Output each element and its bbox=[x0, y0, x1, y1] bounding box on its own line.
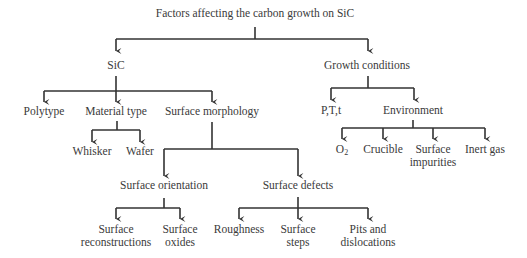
surface-impurities-node: Surface impurities bbox=[410, 143, 457, 169]
environment-node: Environment bbox=[383, 104, 443, 117]
surface-defects-node: Surface defects bbox=[263, 179, 334, 192]
surface-impurities-line1: Surface bbox=[410, 143, 457, 156]
surface-impurities-line2: impurities bbox=[410, 156, 457, 169]
root-node: Factors affecting the carbon growth on S… bbox=[156, 7, 354, 20]
surface-reconstructions-line2: reconstructions bbox=[81, 236, 151, 249]
surface-reconstructions-line1: Surface bbox=[81, 223, 151, 236]
surface-orientation-node: Surface orientation bbox=[120, 179, 208, 192]
surface-oxides-node: Surface oxides bbox=[162, 223, 197, 249]
pits-dislocations-line2: dislocations bbox=[341, 236, 396, 249]
surface-steps-line1: Surface bbox=[280, 223, 315, 236]
pits-dislocations-node: Pits and dislocations bbox=[341, 223, 396, 249]
inert-gas-node: Inert gas bbox=[465, 143, 505, 156]
whisker-node: Whisker bbox=[73, 145, 112, 158]
surface-reconstructions-node: Surface reconstructions bbox=[81, 223, 151, 249]
wafer-node: Wafer bbox=[126, 145, 154, 158]
material-type-node: Material type bbox=[85, 105, 147, 118]
o2-node: O2 bbox=[336, 143, 348, 156]
surface-oxides-line1: Surface bbox=[162, 223, 197, 236]
surface-steps-line2: steps bbox=[280, 236, 315, 249]
surface-steps-node: Surface steps bbox=[280, 223, 315, 249]
connector-lines bbox=[0, 0, 527, 258]
growth-conditions-node: Growth conditions bbox=[324, 59, 410, 72]
polytype-node: Polytype bbox=[24, 105, 65, 118]
surface-oxides-line2: oxides bbox=[162, 236, 197, 249]
o2-subscript: 2 bbox=[344, 148, 348, 157]
crucible-node: Crucible bbox=[363, 143, 403, 156]
surface-morphology-node: Surface morphology bbox=[165, 105, 259, 118]
pits-dislocations-line1: Pits and bbox=[341, 223, 396, 236]
roughness-node: Roughness bbox=[214, 223, 264, 236]
sic-node: SiC bbox=[107, 59, 124, 72]
ptt-node: P,T,t bbox=[321, 104, 341, 117]
factors-tree-diagram: Factors affecting the carbon growth on S… bbox=[0, 0, 527, 258]
